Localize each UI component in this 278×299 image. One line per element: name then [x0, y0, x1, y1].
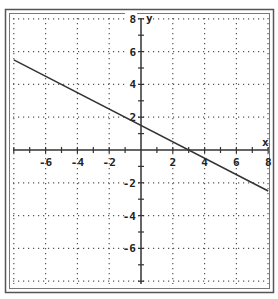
y-tick-label: -4	[123, 210, 137, 223]
inner-frame	[10, 14, 270, 289]
x-tick-label: -6	[39, 156, 53, 169]
y-axis-label: y	[146, 12, 153, 25]
x-tick-label: -2	[103, 156, 116, 169]
x-tick-label: 8	[265, 156, 272, 169]
y-tick-label: -6	[123, 242, 137, 255]
y-tick-label: 8	[129, 13, 136, 26]
x-tick-label: 2	[169, 156, 176, 169]
y-tick-label: 4	[129, 78, 136, 91]
coordinate-plane-chart: -6-4-224688642-2-4-6 x y	[0, 0, 278, 299]
x-tick-label: 6	[233, 156, 240, 169]
x-tick-label: -4	[71, 156, 85, 169]
y-tick-label: 6	[129, 46, 136, 59]
axes	[13, 18, 268, 284]
x-axis-label: x	[262, 136, 269, 149]
y-tick-label: -2	[123, 177, 136, 190]
